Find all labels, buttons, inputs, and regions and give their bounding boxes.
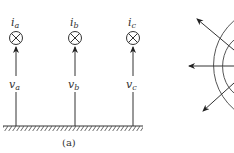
outer-arc: [214, 12, 234, 118]
panel-b: [189, 12, 234, 118]
radial-arrow-icon: [197, 19, 234, 50]
panel-a: ia va ib vb ic: [3, 16, 143, 148]
conductor-b: ib vb: [68, 16, 84, 126]
conductor-c: ic vc: [126, 16, 142, 126]
current-into-page-icon: [69, 32, 82, 45]
conductor-a: ia va: [9, 16, 25, 126]
panel-a-caption: (a): [62, 137, 76, 148]
current-label-a: ia: [11, 16, 20, 30]
ground-plane: [3, 126, 143, 131]
current-label-b: ib: [70, 16, 79, 30]
current-into-page-icon: [127, 32, 140, 45]
diagram: ia va ib vb ic: [0, 0, 234, 153]
current-label-c: ic: [128, 16, 137, 30]
current-into-page-icon: [10, 32, 23, 45]
radial-arrow-icon: [203, 83, 234, 111]
